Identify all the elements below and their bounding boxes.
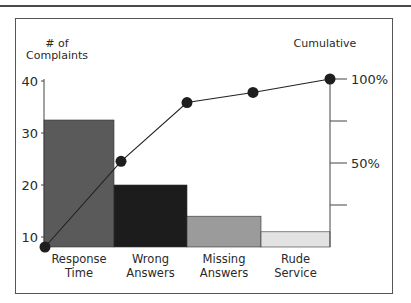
bar-wrong-answers — [114, 185, 187, 247]
category-label: Answers — [200, 266, 248, 280]
y-tick-label: 40 — [21, 74, 38, 89]
pareto-chart: 1020304050%100% # ofComplaintsCumulative… — [0, 0, 411, 303]
category-label: Answers — [126, 266, 174, 280]
category-label: Response — [51, 252, 106, 266]
category-label: Time — [64, 266, 93, 280]
category-label: Rude — [281, 252, 310, 266]
cumulative-point — [40, 242, 51, 253]
bars — [44, 120, 330, 247]
y-tick-label: 10 — [21, 230, 38, 245]
bar-response-time — [44, 120, 114, 247]
y2-axis-title: Cumulative — [294, 37, 357, 50]
y2-tick-label: 100% — [351, 72, 388, 87]
cumulative-point — [182, 97, 193, 108]
y-axis-title: Complaints — [26, 49, 88, 62]
cumulative-point — [248, 87, 259, 98]
category-label: Missing — [203, 252, 246, 266]
y2-tick-label: 50% — [351, 156, 380, 171]
bar-missing-answers — [187, 216, 261, 247]
category-label: Wrong — [132, 252, 169, 266]
y-tick-label: 30 — [21, 126, 38, 141]
y-tick-label: 20 — [21, 178, 38, 193]
cumulative-point — [116, 156, 127, 167]
bar-rude-service — [261, 232, 330, 247]
category-label: Service — [274, 266, 317, 280]
cumulative-point — [325, 74, 336, 85]
